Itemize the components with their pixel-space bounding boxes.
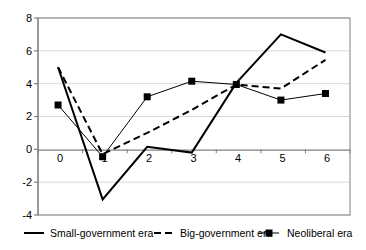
legend-label-big-government-era: Big-government era	[180, 227, 272, 239]
data-point-marker	[188, 78, 195, 85]
y-tick-label-minus4: -4	[22, 209, 32, 221]
y-tick-label-4: 4	[26, 78, 32, 90]
data-point-marker	[322, 90, 329, 97]
y-tick-label-8: 8	[26, 12, 32, 24]
chart-canvas: 8 6 4 2 0 -2 -4 0 1 2 3 4 5 6 Small-gove…	[0, 0, 366, 250]
square-marker-icon	[266, 230, 273, 237]
y-tick-label-6: 6	[26, 45, 32, 57]
x-tick-label-4: 4	[235, 152, 241, 164]
x-tick-label-5: 5	[279, 152, 285, 164]
data-point-marker	[233, 81, 240, 88]
y-tick-label-2: 2	[26, 110, 32, 122]
y-tick-label-0: 0	[26, 143, 32, 155]
legend: Small-government era Big-government era …	[24, 227, 353, 239]
x-tick-label-6: 6	[324, 152, 330, 164]
y-tick-label-minus2: -2	[22, 176, 32, 188]
data-point-marker	[55, 102, 62, 109]
data-point-marker	[99, 153, 106, 160]
x-tick-label-3: 3	[190, 152, 196, 164]
x-tick-label-2: 2	[146, 152, 152, 164]
line-chart: 8 6 4 2 0 -2 -4 0 1 2 3 4 5 6 Small-gove…	[0, 0, 366, 250]
data-point-marker	[144, 93, 151, 100]
legend-label-small-government-era: Small-government era	[50, 227, 153, 239]
legend-label-neoliberal-era: Neoliberal era	[287, 227, 353, 239]
x-tick-label-0: 0	[57, 152, 63, 164]
data-point-marker	[277, 97, 284, 104]
